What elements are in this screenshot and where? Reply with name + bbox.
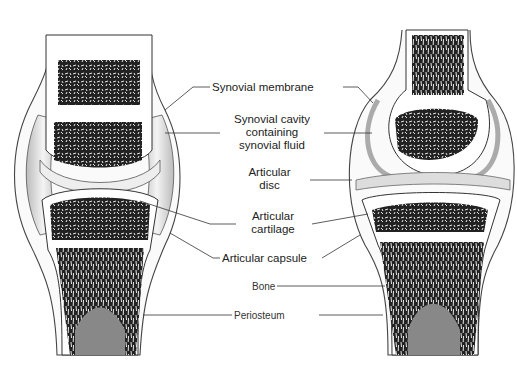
label-synovial-cavity-line1: Synovial cavity	[222, 113, 322, 126]
label-articular-capsule: Articular capsule	[220, 252, 309, 265]
left-joint	[15, 35, 181, 355]
label-synovial-membrane: Synovial membrane	[210, 81, 316, 94]
label-bone: Bone	[250, 280, 277, 293]
lower-bone-spongy-right	[372, 203, 488, 233]
label-synovial-cavity-line2: containing	[222, 126, 322, 139]
label-synovial-cavity: Synovial cavity containing synovial flui…	[220, 113, 324, 152]
upper-bone-compact-right	[412, 35, 464, 95]
right-joint	[349, 30, 514, 355]
upper-bone-spongy-left	[58, 60, 140, 105]
label-synovial-cavity-line3: synovial fluid	[222, 139, 322, 152]
label-periosteum: Periosteum	[232, 309, 287, 322]
label-articular-disc: Articular disc	[240, 166, 299, 192]
label-articular-disc-line2: disc	[242, 179, 297, 192]
lower-bone-spongy-left	[50, 198, 150, 241]
label-articular-disc-line1: Articular	[242, 166, 297, 179]
label-articular-cartilage-line1: Articular	[238, 210, 308, 223]
label-articular-cartilage: Articular cartilage	[236, 210, 310, 236]
label-articular-cartilage-line2: cartilage	[238, 223, 308, 236]
